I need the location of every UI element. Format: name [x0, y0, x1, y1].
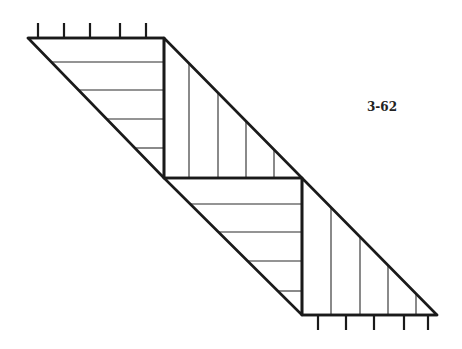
upper-left-triangle — [28, 38, 164, 178]
bending-moment-diagram: 3-62 — [0, 0, 462, 349]
diagram-outlines — [28, 38, 437, 315]
upper-right-triangle — [164, 38, 302, 178]
lower-right-triangle — [302, 178, 437, 315]
lower-left-triangle — [164, 178, 302, 315]
hatch-lines — [51, 62, 416, 315]
figure-label: 3-62 — [367, 100, 397, 114]
support-ticks — [28, 23, 437, 330]
